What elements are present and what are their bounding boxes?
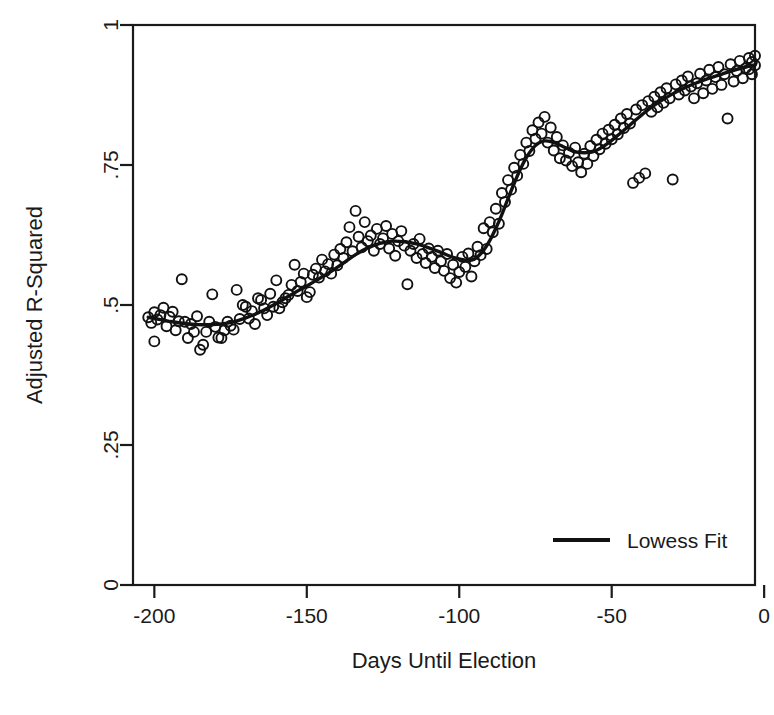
y-axis-title: Adjusted R-Squared bbox=[22, 206, 47, 404]
data-point bbox=[265, 289, 275, 299]
data-point bbox=[344, 222, 354, 232]
data-point bbox=[402, 279, 412, 289]
data-point bbox=[177, 274, 187, 284]
y-tick-label: .5 bbox=[99, 296, 122, 314]
data-point bbox=[232, 285, 242, 295]
y-tick-label: .75 bbox=[99, 150, 122, 179]
x-tick-label: -200 bbox=[133, 604, 175, 627]
data-point bbox=[351, 206, 361, 216]
data-point bbox=[716, 80, 726, 90]
data-point bbox=[491, 204, 501, 214]
data-point bbox=[540, 112, 550, 122]
data-point bbox=[466, 271, 476, 281]
y-tick-label: 0 bbox=[99, 579, 122, 591]
y-tick-label: 1 bbox=[99, 19, 122, 31]
data-point bbox=[396, 226, 406, 236]
data-point bbox=[723, 114, 733, 124]
data-point bbox=[341, 237, 351, 247]
x-tick-label: -50 bbox=[597, 604, 627, 627]
axis-ticks bbox=[120, 25, 764, 598]
data-point bbox=[555, 153, 565, 163]
data-point bbox=[207, 289, 217, 299]
data-point bbox=[192, 311, 202, 321]
y-tick-label: .25 bbox=[99, 430, 122, 459]
data-point bbox=[149, 336, 159, 346]
x-tick-label: 0 bbox=[758, 604, 770, 627]
x-tick-label: -150 bbox=[286, 604, 328, 627]
data-point bbox=[534, 117, 544, 127]
data-point bbox=[183, 333, 193, 343]
x-axis-title: Days Until Election bbox=[352, 648, 537, 673]
x-tick-label: -100 bbox=[438, 604, 480, 627]
data-point bbox=[360, 217, 370, 227]
chart-figure: -200-150-100-5000.25.5.751 Lowess Fit Da… bbox=[0, 0, 774, 715]
scatter-plot: -200-150-100-5000.25.5.751 Lowess Fit Da… bbox=[0, 0, 774, 715]
data-point bbox=[250, 319, 260, 329]
data-point bbox=[546, 122, 556, 132]
data-point bbox=[271, 275, 281, 285]
legend-label-lowess-fit: Lowess Fit bbox=[627, 529, 728, 552]
data-point bbox=[290, 260, 300, 270]
data-point bbox=[668, 175, 678, 185]
data-point bbox=[390, 251, 400, 261]
chart-legend: Lowess Fit bbox=[553, 529, 728, 552]
